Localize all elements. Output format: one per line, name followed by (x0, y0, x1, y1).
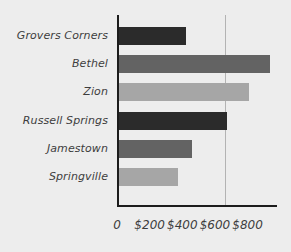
category-label-russell-springs: Russell Springs (0, 115, 108, 127)
x-axis-line (117, 205, 277, 207)
bar-zion (119, 83, 249, 101)
bar-grovers-corners (119, 27, 186, 45)
bar-springville (119, 168, 178, 186)
category-axis-labels: Grovers Corners Bethel Zion Russell Spri… (0, 0, 113, 210)
plot-area (117, 15, 277, 207)
bar-chart: Grovers Corners Bethel Zion Russell Spri… (0, 0, 291, 252)
category-label-springville: Springville (0, 171, 108, 183)
category-label-jamestown: Jamestown (0, 143, 108, 155)
bar-jamestown (119, 140, 192, 158)
category-label-grovers-corners: Grovers Corners (0, 30, 108, 42)
x-tick-label-400: $400 (167, 218, 198, 232)
y-axis-line (117, 15, 119, 207)
bar-bethel (119, 55, 270, 73)
x-tick-label-600: $600 (200, 218, 231, 232)
x-tick-label-200: $200 (134, 218, 165, 232)
x-tick-label-0: 0 (113, 218, 121, 232)
category-label-zion: Zion (0, 86, 108, 98)
bar-russell-springs (119, 112, 227, 130)
gridline-600 (225, 15, 226, 205)
x-tick-label-800: $800 (232, 218, 263, 232)
category-label-bethel: Bethel (0, 58, 108, 70)
x-axis-tick-labels: 0 $200 $400 $600 $800 (0, 218, 291, 238)
